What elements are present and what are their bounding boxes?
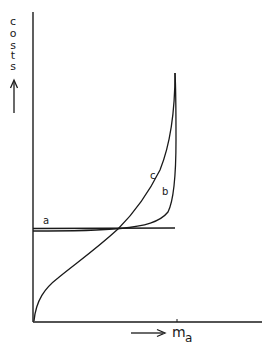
x-axis-label: m — [172, 324, 186, 340]
curve-c — [34, 73, 175, 321]
y-axis-label-letter: s — [10, 60, 16, 73]
curve-a-label: a — [43, 215, 49, 226]
curve-b — [33, 73, 176, 231]
curve-a — [33, 228, 175, 229]
curve-b-label: b — [162, 186, 168, 197]
x-axis-label-subscript: a — [185, 331, 192, 345]
x-axis-arrow-icon — [131, 330, 165, 337]
y-axis-arrow-icon — [11, 80, 18, 113]
curve-c-label: c — [150, 170, 156, 181]
cost-chart: c o s t s m a a b c — [0, 0, 272, 352]
